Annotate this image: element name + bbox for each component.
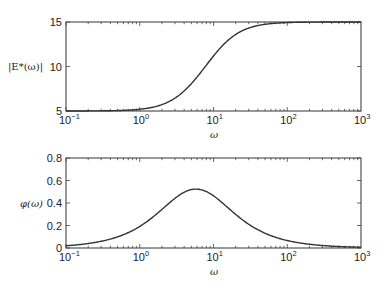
magnitude-xlabel: ω <box>210 129 218 140</box>
y-tick-label: 10 <box>50 61 62 73</box>
phase-curve <box>66 189 361 247</box>
phase-plot-xtick-labels: 10−1100101102103 <box>59 249 370 263</box>
x-tick-label: 102 <box>280 112 296 126</box>
magnitude-plot-ytick-labels: 51015 <box>50 16 62 117</box>
phase-plot-ticks <box>66 158 361 248</box>
y-tick-label: 0.4 <box>47 197 62 209</box>
x-tick-label: 100 <box>133 112 149 126</box>
phase-ylabel: φ(ω) <box>20 198 43 209</box>
magnitude-plot-frame <box>66 22 361 111</box>
x-tick-label: 10−1 <box>59 249 80 263</box>
x-tick-label: 101 <box>207 112 223 126</box>
y-tick-label: 15 <box>50 16 62 28</box>
y-tick-label: 0.2 <box>47 220 62 232</box>
phase-plot-frame <box>66 158 361 248</box>
magnitude-ylabel: |E*(ω)| <box>8 61 43 73</box>
x-tick-label: 103 <box>354 249 370 263</box>
y-tick-label: 5 <box>56 105 62 117</box>
phase-plot-ytick-labels: 00.20.40.60.8 <box>47 152 62 254</box>
y-tick-label: 0.6 <box>47 175 62 187</box>
magnitude-plot-ticks <box>66 22 361 111</box>
x-tick-label: 10−1 <box>59 112 80 126</box>
magnitude-plot: 10−1100101102103 51015 |E*(ω)| ω <box>8 16 370 140</box>
phase-xlabel: ω <box>210 266 218 277</box>
y-tick-label: 0 <box>56 242 62 254</box>
phase-plot: 10−1100101102103 00.20.40.60.8 φ(ω) ω <box>20 152 370 277</box>
x-tick-label: 103 <box>354 112 370 126</box>
x-tick-label: 100 <box>133 249 149 263</box>
x-tick-label: 101 <box>207 249 223 263</box>
magnitude-curve <box>66 22 361 111</box>
y-tick-label: 0.8 <box>47 152 62 164</box>
x-tick-label: 102 <box>280 249 296 263</box>
figure: 10−1100101102103 51015 |E*(ω)| ω 10−1100… <box>0 0 388 291</box>
magnitude-plot-xtick-labels: 10−1100101102103 <box>59 112 370 126</box>
